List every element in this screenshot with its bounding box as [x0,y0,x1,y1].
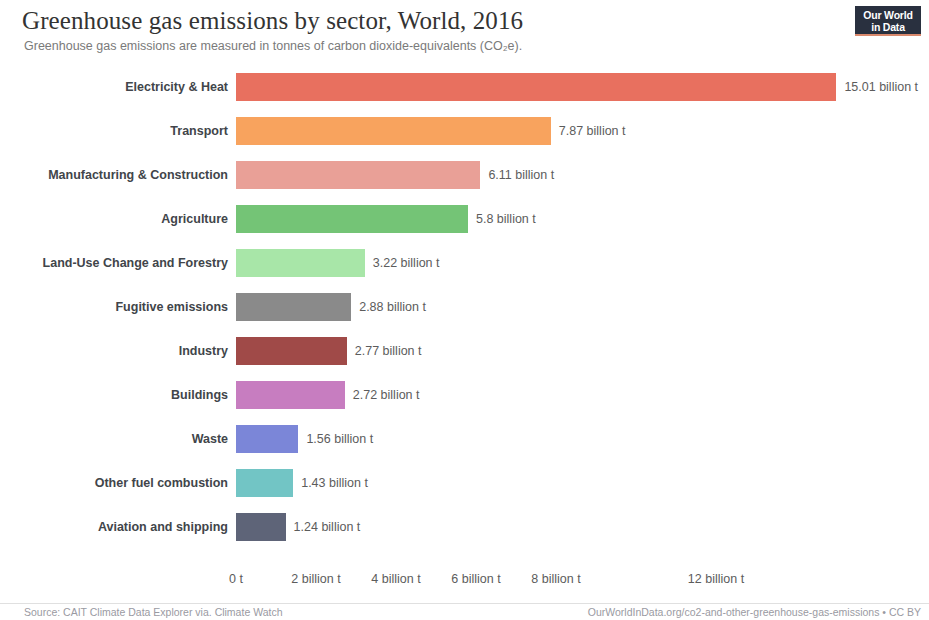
bar-row[interactable]: Other fuel combustion1.43 billion t [0,466,929,500]
bar-rect[interactable] [236,205,468,233]
bar-rect[interactable] [236,117,551,145]
bar-value-label: 5.8 billion t [476,202,536,236]
chart-footer: Source: CAIT Climate Data Explorer via. … [0,603,929,620]
bar-row[interactable]: Manufacturing & Construction6.11 billion… [0,158,929,192]
x-axis-tick-label: 8 billion t [531,572,580,586]
bar-category-label: Transport [0,114,228,148]
bar-row[interactable]: Transport7.87 billion t [0,114,929,148]
bar-row[interactable]: Waste1.56 billion t [0,422,929,456]
bar-category-label: Manufacturing & Construction [0,158,228,192]
bar-category-label: Land-Use Change and Forestry [0,246,228,280]
chart-header: Greenhouse gas emissions by sector, Worl… [22,6,722,54]
x-axis-tick-label: 12 billion t [688,572,744,586]
bar-value-label: 1.24 billion t [294,510,361,544]
chart-subtitle: Greenhouse gas emissions are measured in… [24,39,722,54]
bar-category-label: Industry [0,334,228,368]
bar-category-label: Agriculture [0,202,228,236]
bar-row[interactable]: Land-Use Change and Forestry3.22 billion… [0,246,929,280]
bar-row[interactable]: Buildings2.72 billion t [0,378,929,412]
bar-category-label: Electricity & Heat [0,70,228,104]
bar-value-label: 15.01 billion t [844,70,918,104]
bar-category-label: Buildings [0,378,228,412]
bar-value-label: 1.56 billion t [306,422,373,456]
x-axis-tick-label: 0 t [229,572,243,586]
bar-row[interactable]: Fugitive emissions2.88 billion t [0,290,929,324]
bar-value-label: 2.72 billion t [353,378,420,412]
bar-rect[interactable] [236,249,365,277]
logo-line-1: Our World [863,9,912,21]
bar-category-label: Other fuel combustion [0,466,228,500]
bar-rect[interactable] [236,337,347,365]
x-axis-tick-label: 4 billion t [371,572,420,586]
bar-row[interactable]: Aviation and shipping1.24 billion t [0,510,929,544]
source-note: Source: CAIT Climate Data Explorer via. … [24,606,283,618]
x-axis-tick-label: 2 billion t [291,572,340,586]
bar-row[interactable]: Agriculture5.8 billion t [0,202,929,236]
bar-category-label: Fugitive emissions [0,290,228,324]
bar-rect[interactable] [236,381,345,409]
bar-value-label: 7.87 billion t [559,114,626,148]
bar-value-label: 2.77 billion t [355,334,422,368]
bar-value-label: 6.11 billion t [488,158,554,192]
bar-rect[interactable] [236,73,836,101]
bar-rect[interactable] [236,161,480,189]
bar-value-label: 3.22 billion t [373,246,440,280]
bar-row[interactable]: Electricity & Heat15.01 billion t [0,70,929,104]
logo-line-2: in Data [855,21,921,33]
bar-value-label: 2.88 billion t [359,290,426,324]
page-title: Greenhouse gas emissions by sector, Worl… [22,6,722,36]
bar-category-label: Aviation and shipping [0,510,228,544]
bar-row[interactable]: Industry2.77 billion t [0,334,929,368]
bar-rect[interactable] [236,513,286,541]
license-note[interactable]: OurWorldInData.org/co2-and-other-greenho… [588,606,921,618]
x-axis: 0 t2 billion t4 billion t6 billion t8 bi… [0,572,929,592]
bar-value-label: 1.43 billion t [301,466,368,500]
bar-rect[interactable] [236,425,298,453]
bar-chart-plot-area: Electricity & Heat15.01 billion tTranspo… [0,70,929,560]
bar-rect[interactable] [236,469,293,497]
bar-category-label: Waste [0,422,228,456]
x-axis-tick-label: 6 billion t [451,572,500,586]
bar-rect[interactable] [236,293,351,321]
our-world-in-data-logo[interactable]: Our World in Data [855,6,921,36]
